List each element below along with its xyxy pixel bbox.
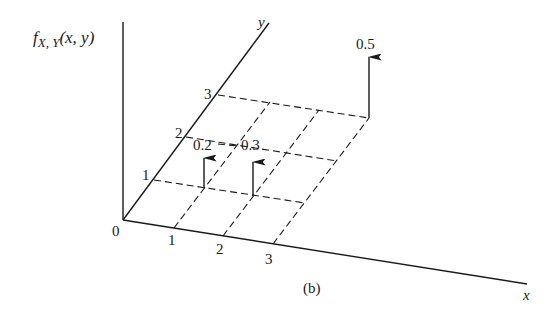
x-axis-label: x [522,287,530,303]
x-tick-1: 1 [168,232,176,248]
mass-label-1-1: 0.2 [193,137,212,153]
mass-label-3-3: 0.5 [356,36,375,52]
origin-label: 0 [112,223,120,239]
caption-text: (b) [303,280,321,297]
y-axis [123,23,269,220]
figure-caption: (b) [303,280,321,297]
y-tick-3: 3 [204,86,212,102]
x-tick-2: 2 [216,241,224,257]
z-label-args: (x, y) [59,28,94,47]
y-axis-label: y [256,14,265,30]
grid-lines-x-const [174,102,369,244]
x-axis [123,220,527,284]
y-tick-1: 1 [142,167,150,183]
x-tick-3: 3 [265,251,273,267]
joint-pmf-diagram: 0.2 0.3 0.5 fX, Y(x, y) y x 0 1 2 3 1 2 … [0,0,553,318]
z-label-subscript: X, Y [37,35,61,50]
z-axis-label: fX, Y(x, y) [33,28,95,50]
y-tick-2: 2 [175,125,183,141]
grid-lines-y-const [154,95,369,203]
mass-label-2-1: 0.3 [241,137,260,153]
